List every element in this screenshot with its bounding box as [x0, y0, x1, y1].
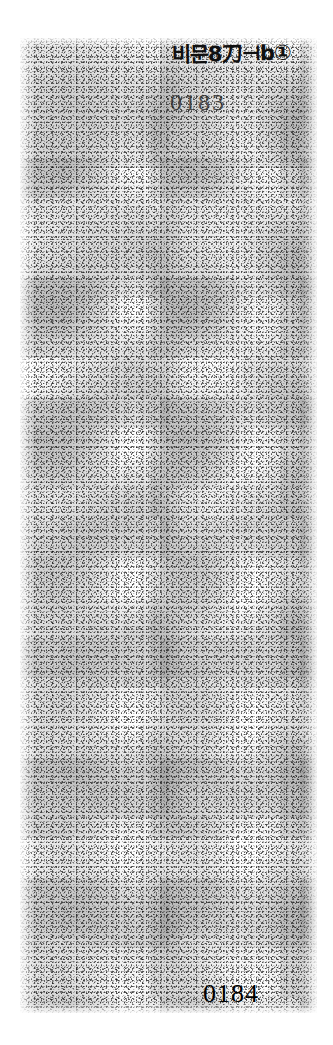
scanned-page-body [20, 38, 317, 1013]
page-number: 0184 [203, 979, 259, 1009]
scan-speckle-layer-c [20, 38, 317, 1013]
scan-speckle-layer-a [20, 38, 317, 1013]
upper-stamp-number: 0183 [170, 89, 226, 116]
scan-edge-fade [20, 38, 317, 1013]
scan-blotch-texture [20, 38, 317, 1013]
scan-speckle-layer-b [20, 38, 317, 1013]
document-page: 비문8刀⊣b① 0183 0184 [0, 0, 333, 1045]
handwritten-annotation: 비문8刀⊣b① [172, 37, 313, 72]
